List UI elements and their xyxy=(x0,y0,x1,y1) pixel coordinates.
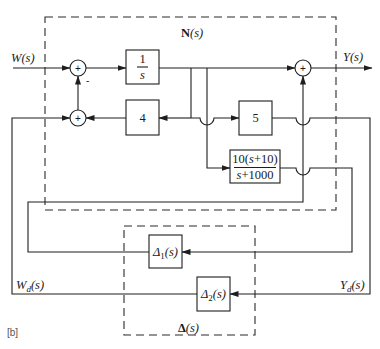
plus-sign: + xyxy=(300,63,306,74)
plus-sign: + xyxy=(75,63,81,74)
delta2-label: Δ2(s) xyxy=(200,287,226,303)
integrator-denominator: s xyxy=(140,68,145,82)
signal-lines xyxy=(12,68,372,294)
integrator-numerator: 1 xyxy=(139,52,145,66)
wd-label: Wd(s) xyxy=(16,278,44,294)
gain-4-value: 4 xyxy=(139,111,146,125)
plus-sign: + xyxy=(75,113,81,124)
figure-label: [b] xyxy=(7,327,18,338)
uncertainty-block-label: Δ(s) xyxy=(178,321,199,335)
upper-summing-junction: + - xyxy=(70,60,89,86)
input-label: W(s) xyxy=(11,51,35,65)
gain-4-block: 4 xyxy=(126,100,159,135)
gain-5-block: 5 xyxy=(239,101,272,135)
uncertainty-block-boundary xyxy=(124,226,255,335)
yd-signal-line xyxy=(230,118,370,294)
filter-numerator: 10(s+10) xyxy=(232,152,277,166)
filter-denominator: s+1000 xyxy=(237,168,274,182)
lower-summing-junction: + xyxy=(70,110,86,126)
branch-to-gain-5-line xyxy=(191,118,239,125)
delta1-label: Δ1(s) xyxy=(152,245,178,261)
delta1-block: Δ1(s) xyxy=(149,235,182,268)
delta2-block: Δ2(s) xyxy=(197,277,230,311)
gain-5-value: 5 xyxy=(252,111,258,125)
yd-label: Yd(s) xyxy=(340,278,365,294)
integrator-block: 1 s xyxy=(126,50,159,84)
output-summing-junction: + xyxy=(295,60,311,76)
output-label: Y(s) xyxy=(343,50,363,64)
filter-block: 10(s+10) s+1000 xyxy=(230,150,280,183)
block-diagram: + - + + 1 s 4 5 10(s+10) s+1000 Δ1(s) xyxy=(0,0,380,349)
nominal-system-label: N(s) xyxy=(181,26,203,40)
minus-sign: - xyxy=(86,75,89,86)
